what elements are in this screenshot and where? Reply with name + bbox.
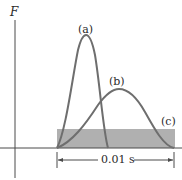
curve-label-b: (b) — [109, 76, 125, 87]
duration-label: 0.01 s — [101, 154, 135, 165]
arrowhead-right-icon — [168, 158, 173, 162]
curve-label-c: (c) — [161, 116, 176, 127]
arrowhead-left-icon — [58, 158, 63, 162]
y-axis-label: F — [10, 6, 18, 18]
curve-label-a: (a) — [78, 24, 93, 35]
